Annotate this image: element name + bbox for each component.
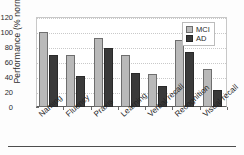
bar-mci-learning (121, 55, 130, 108)
bottom-divider (8, 146, 236, 147)
legend-swatch-ad-icon (186, 35, 193, 42)
bar-mci-praxis (94, 38, 103, 107)
x-axis-tick-mark (63, 107, 64, 110)
y-axis-tick-label: 0 (0, 103, 13, 112)
y-axis-tick-label: 60 (0, 58, 13, 67)
bar-group (94, 17, 118, 107)
legend-swatch-mci-icon (186, 26, 193, 33)
bar-mci-fluency (66, 55, 75, 108)
y-axis-title: Performance (% normal) (12, 0, 22, 90)
y-axis-tick-mark (36, 107, 39, 108)
bar-mci-naming (39, 32, 48, 107)
x-axis-tick-mark (172, 107, 173, 110)
y-axis-tick-label: 120 (0, 13, 13, 22)
legend-label: AD (196, 34, 206, 43)
legend-label: MCI (196, 25, 210, 34)
legend-item-mci: MCI (186, 25, 210, 34)
x-axis-tick-mark (145, 107, 146, 110)
bar-chart-figure: Performance (% normal) 020406080100120 N… (0, 0, 244, 155)
y-axis-tick-label: 100 (0, 28, 13, 37)
bar-group (66, 17, 90, 107)
y-axis-tick-label: 20 (0, 88, 13, 97)
y-axis-tick-label: 40 (0, 73, 13, 82)
x-axis-tick-mark (200, 107, 201, 110)
legend: MCIAD (182, 22, 215, 46)
y-axis-tick-label: 80 (0, 43, 13, 52)
x-axis-tick-mark (118, 107, 119, 110)
legend-item-ad: AD (186, 34, 210, 43)
x-axis-tick-mark (91, 107, 92, 110)
bar-mci-recognition (175, 40, 184, 107)
x-axis-tick-mark (227, 107, 228, 110)
bar-group (39, 17, 63, 107)
